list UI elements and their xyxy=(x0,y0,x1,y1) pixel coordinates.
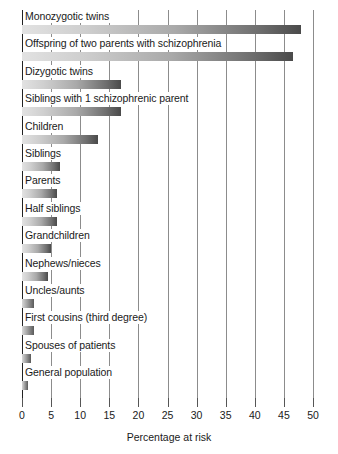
x-axis-title: Percentage at risk xyxy=(0,431,338,443)
plot-area: Monozygotic twinsOffspring of two parent… xyxy=(22,10,313,405)
x-tick-label: 50 xyxy=(300,409,326,421)
bar-category-label: Grandchildren xyxy=(24,229,93,242)
bar xyxy=(22,299,34,308)
bar-category-label: Monozygotic twins xyxy=(24,10,112,23)
risk-bar-chart: Monozygotic twinsOffspring of two parent… xyxy=(0,0,338,454)
bar xyxy=(22,162,60,171)
table-row: Half siblings xyxy=(22,202,313,228)
x-tick-50 xyxy=(313,398,314,407)
x-tick-label: 0 xyxy=(9,409,35,421)
x-tick-label: 25 xyxy=(155,409,181,421)
x-tick-label: 30 xyxy=(184,409,210,421)
x-tick-10 xyxy=(80,398,81,407)
table-row: General population xyxy=(22,366,313,392)
bar-category-label: Uncles/aunts xyxy=(24,284,88,297)
gridline-50 xyxy=(313,10,314,405)
x-tick-45 xyxy=(284,398,285,407)
table-row: Siblings xyxy=(22,147,313,173)
x-tick-25 xyxy=(168,398,169,407)
bar xyxy=(22,244,51,253)
bar xyxy=(22,189,57,198)
x-tick-30 xyxy=(197,398,198,407)
x-tick-0 xyxy=(22,398,23,407)
bar xyxy=(22,354,31,363)
bar xyxy=(22,326,34,335)
table-row: Spouses of patients xyxy=(22,339,313,365)
table-row: Dizygotic twins xyxy=(22,65,313,91)
bar-category-label: Parents xyxy=(24,174,64,187)
table-row: Monozygotic twins xyxy=(22,10,313,36)
bar-category-label: Spouses of patients xyxy=(24,339,118,352)
x-tick-40 xyxy=(255,398,256,407)
bar xyxy=(22,25,301,34)
bar xyxy=(22,52,293,61)
bar xyxy=(22,107,121,116)
x-tick-15 xyxy=(109,398,110,407)
x-tick-label: 5 xyxy=(38,409,64,421)
bar-category-label: Offspring of two parents with schizophre… xyxy=(24,37,224,50)
table-row: Nephews/nieces xyxy=(22,257,313,283)
table-row: Children xyxy=(22,120,313,146)
bar-category-label: Half siblings xyxy=(24,202,83,215)
bar xyxy=(22,135,98,144)
x-tick-label: 35 xyxy=(213,409,239,421)
x-tick-5 xyxy=(51,398,52,407)
bar xyxy=(22,217,57,226)
table-row: First cousins (third degree) xyxy=(22,311,313,337)
bar xyxy=(22,272,48,281)
x-tick-label: 10 xyxy=(67,409,93,421)
x-tick-35 xyxy=(226,398,227,407)
bar-category-label: Siblings xyxy=(24,147,64,160)
table-row: Siblings with 1 schizophrenic parent xyxy=(22,92,313,118)
bar-category-label: Siblings with 1 schizophrenic parent xyxy=(24,92,191,105)
table-row: Parents xyxy=(22,174,313,200)
x-tick-20 xyxy=(138,398,139,407)
bar-category-label: Children xyxy=(24,120,66,133)
x-tick-label: 40 xyxy=(242,409,268,421)
table-row: Offspring of two parents with schizophre… xyxy=(22,37,313,63)
bar xyxy=(22,381,28,390)
bar-category-label: First cousins (third degree) xyxy=(24,311,150,324)
table-row: Grandchildren xyxy=(22,229,313,255)
bar-category-label: Dizygotic twins xyxy=(24,65,96,78)
bar xyxy=(22,80,121,89)
x-tick-label: 45 xyxy=(271,409,297,421)
x-tick-label: 15 xyxy=(96,409,122,421)
bar-category-label: Nephews/nieces xyxy=(24,257,104,270)
table-row: Uncles/aunts xyxy=(22,284,313,310)
x-tick-label: 20 xyxy=(125,409,151,421)
bar-category-label: General population xyxy=(24,366,115,379)
